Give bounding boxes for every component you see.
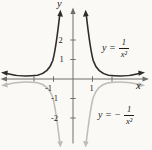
equation-positive-numerator: 1 [120, 38, 128, 48]
function-plot-figure: y x 2 1 -1 -2 -1 1 y = 1 x² y = − 1 x² [0, 0, 152, 150]
x-axis-left-arrow-icon [1, 77, 8, 82]
curve-positive-right-arrow-icon [138, 70, 145, 75]
y-tick-label-neg2: -2 [51, 114, 58, 123]
equation-label-negative: y = − 1 x² [98, 105, 134, 125]
curve-positive-up-right-arrow-icon [83, 10, 89, 17]
y-axis-top-arrow-icon [70, 8, 75, 15]
y-tick-label-1: 1 [60, 55, 64, 64]
equation-positive-lhs: y = [102, 43, 116, 53]
x-tick-label-1: 1 [90, 84, 94, 93]
equation-positive-denominator: x² [119, 48, 129, 59]
equation-positive-fraction: 1 x² [119, 38, 129, 58]
x-axis-label: x [136, 81, 141, 92]
equation-negative-fraction: 1 x² [124, 105, 134, 125]
curve-negative-down-left-arrow-icon [57, 141, 63, 148]
x-axis-right-arrow-icon [143, 77, 150, 82]
equation-label-positive: y = 1 x² [102, 38, 129, 58]
curve-positive-left-arrow-icon [1, 70, 8, 75]
equation-negative-denominator: x² [124, 115, 134, 126]
y-tick-label-neg1: -1 [51, 94, 58, 103]
y-tick-label-2: 2 [59, 36, 63, 45]
curve-negative-down-right-arrow-icon [83, 141, 89, 148]
y-axis-label: y [57, 0, 62, 10]
equation-negative-lhs: y = − [98, 110, 121, 120]
x-tick-label-neg1: -1 [45, 84, 52, 93]
equation-negative-numerator: 1 [125, 105, 133, 115]
plot-canvas [0, 0, 152, 150]
curve-negative-left-arrow-icon [1, 82, 8, 87]
curve-positive-up-left-arrow-icon [57, 10, 63, 17]
curve-positive-left-branch [6, 15, 60, 76]
